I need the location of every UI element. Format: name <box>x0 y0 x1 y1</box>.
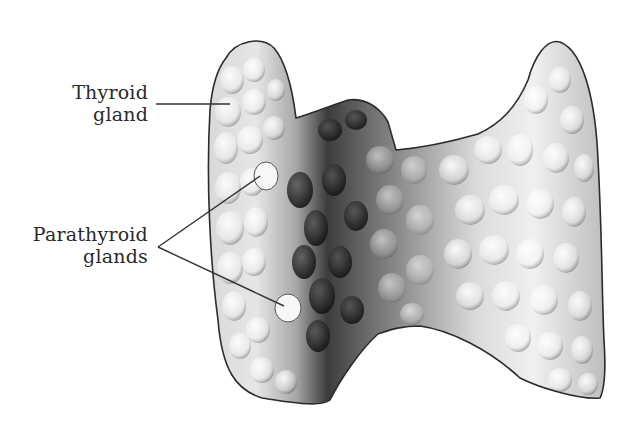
parathyroid-gland-lower <box>275 294 301 322</box>
thyroid-gland-body <box>208 41 604 404</box>
thyroid-illustration <box>0 0 634 427</box>
parathyroid-gland-upper <box>254 162 278 190</box>
